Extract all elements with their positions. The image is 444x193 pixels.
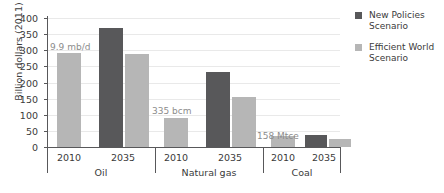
y-tick-label-50: 50 <box>26 125 38 136</box>
bar-natural-gas-2035-new-policies <box>206 72 230 147</box>
y-tick-200: 200 <box>44 83 48 84</box>
y-tick-400: 400 <box>44 18 48 19</box>
group-separator-oil-gas <box>155 147 156 173</box>
annotation-coal: 158 Mtce <box>257 131 299 141</box>
legend-label-new-policies-line1: New Policies <box>369 10 443 21</box>
y-tick-label-400: 400 <box>20 13 38 24</box>
gridline-200 <box>48 83 340 84</box>
x-axis-line <box>47 147 341 148</box>
legend-item-new-policies: New Policies Scenario <box>355 10 443 31</box>
y-tick-label-350: 350 <box>20 29 38 40</box>
group-separator-right <box>340 147 341 173</box>
y-tick-300: 300 <box>44 50 48 51</box>
plot-area: 400 350 300 250 200 150 100 50 0 9.9 mb/… <box>48 18 340 147</box>
gridline-400 <box>48 18 340 19</box>
bar-coal-2035-efficient <box>329 139 351 147</box>
y-tick-label-200: 200 <box>20 77 38 88</box>
bar-oil-2035-efficient <box>125 54 149 147</box>
group-label-coal: Coal <box>292 167 313 178</box>
y-tick-250: 250 <box>44 66 48 67</box>
y-tick-label-0: 0 <box>32 142 38 153</box>
x-tick-label-coal-2035: 2035 <box>312 152 336 163</box>
gridline-300 <box>48 50 340 51</box>
y-tick-350: 350 <box>44 34 48 35</box>
gridline-100 <box>48 115 340 116</box>
bar-chart: Billion dollars (2011) 400 350 300 250 2… <box>0 0 444 193</box>
annotation-oil: 9.9 mb/d <box>50 42 90 52</box>
x-tick-label-coal-2010: 2010 <box>271 152 295 163</box>
bar-oil-2035-new-policies <box>99 28 123 147</box>
legend-swatch-efficient-world <box>355 44 362 51</box>
x-tick-label-oil-2010: 2010 <box>57 152 81 163</box>
y-tick-label-100: 100 <box>20 109 38 120</box>
bar-natural-gas-2035-efficient <box>232 97 256 147</box>
x-tick-label-natural-gas-2035: 2035 <box>218 152 242 163</box>
legend: New Policies Scenario Efficient World Sc… <box>355 10 443 74</box>
bar-coal-2035-new-policies <box>305 135 327 147</box>
x-tick-label-natural-gas-2010: 2010 <box>164 152 188 163</box>
y-tick-100: 100 <box>44 115 48 116</box>
group-separator-gas-coal <box>263 147 264 173</box>
gridline-250 <box>48 66 340 67</box>
gridline-150 <box>48 99 340 100</box>
y-tick-50: 50 <box>44 131 48 132</box>
legend-label-new-policies-line2: Scenario <box>369 21 443 32</box>
group-label-natural-gas: Natural gas <box>182 167 237 178</box>
legend-label-efficient-world-line1: Efficient World <box>369 42 443 53</box>
gridline-350 <box>48 34 340 35</box>
group-label-oil: Oil <box>95 167 108 178</box>
x-tick-label-oil-2035: 2035 <box>111 152 135 163</box>
bar-natural-gas-2010-efficient <box>164 118 188 147</box>
group-separator-left <box>47 147 48 173</box>
legend-label-efficient-world-line2: Scenario <box>369 53 443 64</box>
bar-oil-2010-efficient <box>57 53 81 147</box>
y-tick-label-250: 250 <box>20 61 38 72</box>
annotation-natural-gas: 335 bcm <box>152 106 191 116</box>
legend-item-efficient-world: Efficient World Scenario <box>355 42 443 63</box>
legend-swatch-new-policies <box>355 12 362 19</box>
y-tick-label-150: 150 <box>20 93 38 104</box>
y-tick-label-300: 300 <box>20 45 38 56</box>
y-tick-150: 150 <box>44 99 48 100</box>
